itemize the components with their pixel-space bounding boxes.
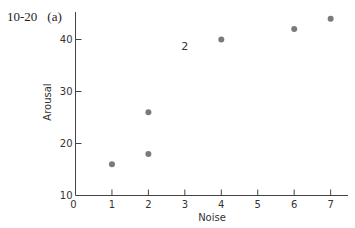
y-axis-title: Arousal	[42, 83, 53, 120]
y-tick-label: 10	[60, 190, 73, 201]
data-point	[291, 26, 297, 32]
x-tick-label: 1	[109, 199, 115, 210]
x-tick-label: 3	[182, 199, 188, 210]
data-point	[145, 151, 151, 157]
data-point	[109, 161, 115, 167]
x-tick-label: 7	[327, 199, 333, 210]
y-tick-label: 20	[60, 138, 73, 149]
x-tick-label: 2	[145, 199, 151, 210]
x-ticks: 01234567	[70, 190, 334, 210]
y-tick-label: 40	[60, 34, 73, 45]
data-point	[218, 37, 224, 43]
x-tick-label: 5	[255, 199, 261, 210]
data-points	[109, 16, 334, 168]
axes	[76, 12, 349, 196]
annotations: 2	[181, 40, 188, 53]
data-point	[145, 109, 151, 115]
y-tick-label: 30	[60, 86, 73, 97]
scatter-chart: 01234567 10203040 Noise Arousal 2	[0, 0, 355, 228]
data-point	[328, 16, 334, 22]
annotation-label: 2	[181, 40, 188, 53]
x-tick-label: 4	[218, 199, 224, 210]
x-axis-title: Noise	[198, 212, 226, 223]
x-tick-label: 6	[291, 199, 297, 210]
y-ticks: 10203040	[60, 34, 82, 201]
